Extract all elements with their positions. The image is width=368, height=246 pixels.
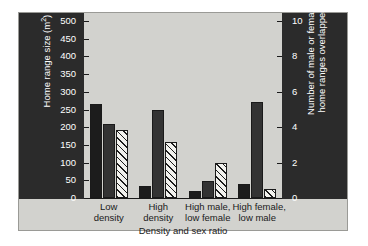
figure: Home range size (m2) 0501001502002503003… <box>0 0 368 246</box>
x-axis-title: Density and sex ratio <box>19 225 347 236</box>
y-axis-right-tickmark <box>277 127 282 128</box>
y-axis-left-tick-0: 0 <box>71 193 76 203</box>
y-axis-right-tickmark <box>277 56 282 57</box>
y-axis-left-tickmark <box>84 56 89 57</box>
bar <box>103 124 115 198</box>
bar <box>251 102 263 198</box>
y-axis-left-tickmark <box>84 39 89 40</box>
y-axis-left-tick-500: 500 <box>60 16 76 26</box>
y-axis-left-tick-100: 100 <box>60 158 76 168</box>
x-axis-category-label: Lowdensity <box>84 201 134 223</box>
y-axis-left-tickmark <box>84 21 89 22</box>
y-axis-right-tickmark <box>277 163 282 164</box>
chart-frame: Home range size (m2) 0501001502002503003… <box>18 12 348 231</box>
y-axis-left-tick-150: 150 <box>60 140 76 150</box>
x-axis-category-line: density <box>84 212 134 223</box>
y-axis-left-tickmark <box>84 145 89 146</box>
y-axis-left-tick-200: 200 <box>60 122 76 132</box>
y-axis-left-tickmark <box>84 163 89 164</box>
y-axis-left-title-suffix: ) <box>41 15 52 18</box>
y-axis-left-tick-350: 350 <box>60 69 76 79</box>
y-axis-left-tick-450: 450 <box>60 34 76 44</box>
x-axis-category-labels: LowdensityHighdensityHigh male,low femal… <box>84 201 282 225</box>
y-axis-left-tick-300: 300 <box>60 87 76 97</box>
x-axis-category-line: High male, <box>183 201 233 212</box>
y-axis-left-title-sup: 2 <box>40 18 47 22</box>
left-axis-panel: Home range size (m2) 0501001502002503003… <box>19 13 84 199</box>
y-axis-right-title-line2: home ranges overlapped <box>316 0 327 146</box>
x-axis-category-label: High male,low female <box>183 201 233 223</box>
y-axis-right-title-line1: Number of male or female <box>305 0 316 146</box>
y-axis-left-title-text: Home range size (m <box>41 22 52 108</box>
bar <box>116 130 128 198</box>
y-axis-right-tick-0: 0 <box>292 193 297 203</box>
bar <box>165 142 177 198</box>
y-axis-right-tick-4: 4 <box>292 122 297 132</box>
y-axis-left-tickmark <box>84 92 89 93</box>
y-axis-right-tick-10: 10 <box>292 16 303 26</box>
y-axis-right-tick-2: 2 <box>292 158 297 168</box>
x-axis-category-line: low male <box>233 212 283 223</box>
x-axis-category-line: Low <box>84 201 134 212</box>
y-axis-left-tick-400: 400 <box>60 51 76 61</box>
x-axis-category-line: density <box>134 212 184 223</box>
bar <box>264 189 276 198</box>
y-axis-left-tickmark <box>84 110 89 111</box>
x-axis-category-label: Highdensity <box>134 201 184 223</box>
y-axis-right-title: Number of male or female home ranges ove… <box>305 0 327 146</box>
bar <box>202 181 214 198</box>
y-axis-left-tickmark <box>84 127 89 128</box>
x-axis-category-label: High female,low male <box>233 201 283 223</box>
bar <box>90 104 102 198</box>
y-axis-left-tick-50: 50 <box>65 175 76 185</box>
bar <box>189 191 201 198</box>
y-axis-right-tickmark <box>277 21 282 22</box>
x-axis-line <box>84 198 282 199</box>
y-axis-left-tickmark <box>84 74 89 75</box>
plot-area <box>84 13 282 199</box>
right-axis-panel: Number of male or female home ranges ove… <box>282 13 347 199</box>
bar <box>139 186 151 198</box>
x-axis-category-line: low female <box>183 212 233 223</box>
y-axis-left-tickmark <box>84 180 89 181</box>
bar <box>238 184 250 198</box>
bar <box>152 110 164 198</box>
y-axis-right-tickmark <box>277 92 282 93</box>
y-axis-left-title: Home range size (m2) <box>40 0 52 136</box>
y-axis-right-tick-6: 6 <box>292 87 297 97</box>
y-axis-left-tick-250: 250 <box>60 105 76 115</box>
x-axis-category-line: High female, <box>233 201 283 212</box>
x-axis-category-line: High <box>134 201 184 212</box>
bar <box>215 163 227 198</box>
y-axis-right-tick-8: 8 <box>292 51 297 61</box>
